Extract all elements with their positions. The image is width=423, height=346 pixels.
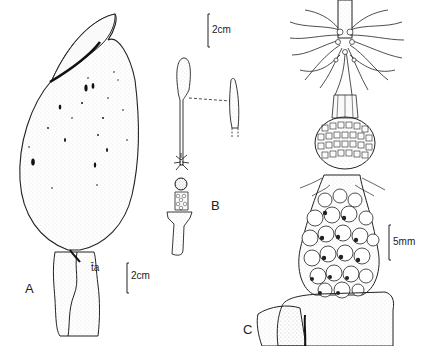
scale-label-c: 5mm xyxy=(393,236,415,247)
scale-label-a: 2cm xyxy=(131,270,150,281)
panel-label-a: A xyxy=(25,281,34,296)
panel-a-spathe xyxy=(20,14,139,336)
panel-label-b: B xyxy=(211,198,220,213)
scale-bar-a xyxy=(127,263,129,293)
botanical-illustration xyxy=(0,0,423,346)
scale-bar-b xyxy=(208,14,210,47)
panel-c-spadix-detail xyxy=(257,0,404,346)
panel-b-spadix xyxy=(167,58,239,255)
scale-label-b: 2cm xyxy=(212,24,231,35)
stalk-annotation: t̄a xyxy=(91,262,99,273)
scale-bar-c xyxy=(389,225,391,260)
panel-label-c: C xyxy=(243,322,252,337)
